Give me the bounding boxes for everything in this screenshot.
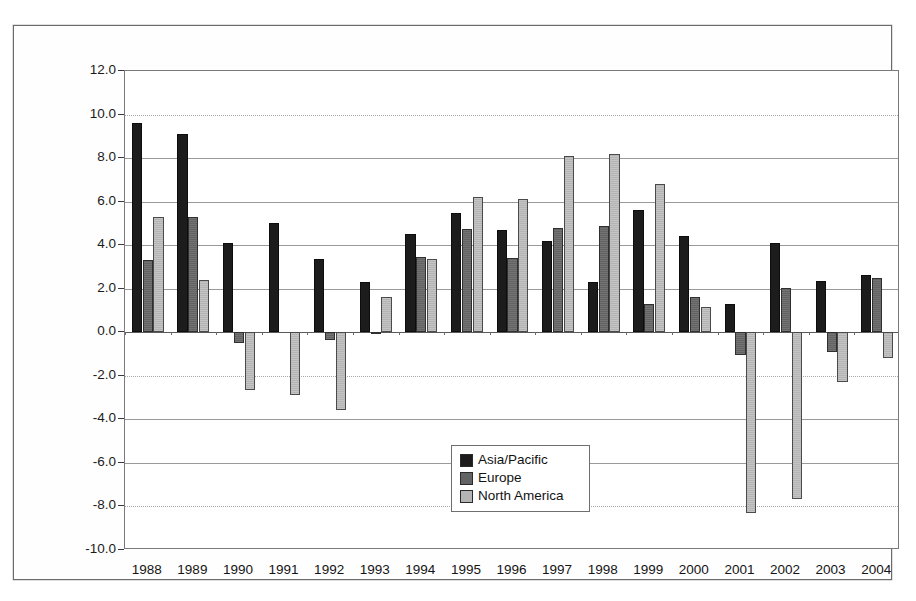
bar xyxy=(644,304,654,332)
bar xyxy=(542,241,552,332)
x-axis-tick-label: 2003 xyxy=(816,562,846,577)
x-axis-tick-label: 1989 xyxy=(177,562,207,577)
x-axis-tick xyxy=(718,332,719,335)
bar xyxy=(143,260,153,332)
x-axis-tick-label: 1988 xyxy=(132,562,162,577)
x-axis-tick xyxy=(216,332,217,335)
gridline xyxy=(125,245,898,246)
bar xyxy=(679,236,689,332)
x-axis-tick xyxy=(262,332,263,335)
legend-swatch-icon xyxy=(460,454,473,467)
y-axis-tick-label: -2.0 xyxy=(54,368,116,382)
bar xyxy=(746,332,756,513)
x-axis-labels: 1988198919901991199219931994199519961997… xyxy=(124,556,899,580)
bar xyxy=(325,332,335,340)
x-axis-tick-label: 2000 xyxy=(679,562,709,577)
x-axis-tick-label: 1996 xyxy=(496,562,526,577)
legend-label: North America xyxy=(478,489,564,503)
bar xyxy=(816,281,826,332)
bar xyxy=(599,226,609,333)
x-axis-tick xyxy=(626,332,627,335)
x-axis-tick xyxy=(353,332,354,335)
x-axis-tick-label: 2004 xyxy=(861,562,891,577)
bar xyxy=(416,257,426,332)
y-axis-tick-label: 2.0 xyxy=(54,281,116,295)
bar xyxy=(770,243,780,332)
bar xyxy=(518,199,528,332)
x-axis-tick-label: 1993 xyxy=(360,562,390,577)
x-axis-tick xyxy=(490,332,491,335)
y-axis-tick-label: 0.0 xyxy=(54,325,116,339)
bar xyxy=(837,332,847,382)
x-axis-tick xyxy=(444,332,445,335)
y-axis-tick-label: 6.0 xyxy=(54,194,116,208)
figure-frame: Operating profit as % Revenues 12.010.08… xyxy=(13,25,892,580)
gridline xyxy=(125,158,898,159)
x-axis-tick xyxy=(125,332,126,335)
x-axis-tick-label: 1990 xyxy=(223,562,253,577)
x-axis-tick-label: 1999 xyxy=(633,562,663,577)
bar xyxy=(290,332,300,395)
bar xyxy=(861,275,871,333)
bar xyxy=(188,217,198,332)
bar xyxy=(427,259,437,332)
bar xyxy=(827,332,837,352)
x-axis-tick-label: 1994 xyxy=(405,562,435,577)
bar xyxy=(405,234,415,332)
bar xyxy=(735,332,745,355)
bar xyxy=(360,282,370,332)
x-axis-tick xyxy=(763,332,764,335)
y-axis-tick-label: -6.0 xyxy=(54,455,116,469)
bar xyxy=(245,332,255,390)
bar xyxy=(507,258,517,332)
gridline xyxy=(125,419,898,420)
x-axis-tick xyxy=(809,332,810,335)
legend-item-north-america: North America xyxy=(460,487,582,505)
bar xyxy=(199,280,209,332)
y-axis-tick xyxy=(118,549,124,550)
y-axis-tick-label: 12.0 xyxy=(54,63,116,77)
legend-label: Europe xyxy=(478,471,522,485)
y-axis-tick-label: 8.0 xyxy=(54,150,116,164)
bar xyxy=(177,134,187,332)
x-axis-tick xyxy=(854,332,855,335)
x-axis-tick xyxy=(307,332,308,335)
y-axis-tick-label: -4.0 xyxy=(54,412,116,426)
bar xyxy=(690,297,700,332)
bar xyxy=(381,297,391,332)
x-axis-tick xyxy=(535,332,536,335)
bar xyxy=(497,230,507,332)
chart-legend: Asia/Pacific Europe North America xyxy=(451,445,590,512)
bar xyxy=(655,184,665,332)
x-axis-tick-label: 1991 xyxy=(269,562,299,577)
bar xyxy=(132,123,142,332)
bar xyxy=(564,156,574,332)
bar xyxy=(234,332,244,343)
y-axis-tick-label: 4.0 xyxy=(54,237,116,251)
bar xyxy=(336,332,346,409)
x-axis-tick xyxy=(171,332,172,335)
y-axis-tick-label: 10.0 xyxy=(54,107,116,121)
gridline xyxy=(125,115,898,116)
bar xyxy=(872,278,882,332)
bar xyxy=(371,332,381,334)
legend-swatch-icon xyxy=(460,490,473,503)
legend-label: Asia/Pacific xyxy=(478,453,548,467)
bar xyxy=(588,282,598,332)
y-axis-tick-label: -10.0 xyxy=(54,542,116,556)
bar xyxy=(781,288,791,333)
bar xyxy=(609,154,619,333)
x-axis-tick-label: 1992 xyxy=(314,562,344,577)
bar xyxy=(462,229,472,332)
legend-item-asia-pacific: Asia/Pacific xyxy=(460,451,582,469)
bar xyxy=(725,304,735,332)
bar xyxy=(701,307,711,332)
x-axis-tick-label: 1998 xyxy=(588,562,618,577)
legend-item-europe: Europe xyxy=(460,469,582,487)
x-axis-tick xyxy=(672,332,673,335)
gridline xyxy=(125,202,898,203)
bar xyxy=(269,223,279,332)
x-axis-tick-label: 1997 xyxy=(542,562,572,577)
x-axis-tick xyxy=(399,332,400,335)
gridline xyxy=(125,376,898,377)
